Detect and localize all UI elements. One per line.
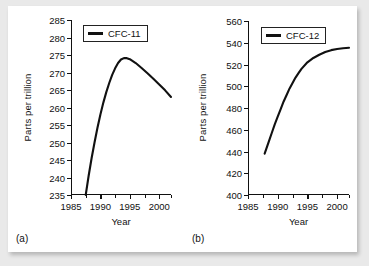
plot-area-b: 4004204404604805005205405601985199019952…: [248, 21, 349, 195]
x-tick-label: 1985: [237, 201, 258, 212]
y-tick-label: 560: [226, 16, 242, 27]
x-tick: [159, 195, 160, 199]
legend-a: CFC-11: [83, 25, 148, 42]
y-tick-label: 480: [226, 103, 242, 114]
x-tick-label: 1995: [297, 201, 318, 212]
x-tick-minor: [171, 195, 172, 198]
y-tick-label: 285: [49, 15, 65, 26]
y-tick-label: 400: [226, 190, 242, 201]
x-tick-label: 2000: [149, 201, 170, 212]
figure-card: Parts per trillion 235240245250255260265…: [8, 6, 357, 252]
y-tick-label: 440: [226, 146, 242, 157]
x-axis-title-a: Year: [71, 216, 171, 227]
x-tick-label: 1995: [119, 201, 140, 212]
x-tick-label: 2000: [327, 201, 348, 212]
x-tick-minor: [349, 195, 350, 198]
y-axis-title-a: Parts per trillion: [22, 50, 33, 166]
y-tick-label: 540: [226, 37, 242, 48]
x-tick: [278, 195, 279, 199]
y-tick-label: 270: [49, 67, 65, 78]
data-curve-cfc-11: [71, 20, 171, 195]
y-tick-label: 500: [226, 81, 242, 92]
y-tick-label: 420: [226, 168, 242, 179]
y-tick-label: 255: [49, 120, 65, 131]
x-tick-label: 1990: [90, 201, 111, 212]
x-tick: [71, 195, 72, 199]
x-tick-minor: [145, 195, 146, 198]
legend-label-cfc-12: CFC-12: [286, 30, 319, 41]
x-tick-minor: [322, 195, 323, 198]
x-tick-minor: [115, 195, 116, 198]
y-tick-label: 460: [226, 124, 242, 135]
legend-line-swatch-cfc-12: [266, 34, 281, 37]
y-tick-label: 260: [49, 102, 65, 113]
x-tick-label: 1990: [267, 201, 288, 212]
legend-label-cfc-11: CFC-11: [108, 28, 141, 39]
x-tick: [248, 195, 249, 199]
data-curve-cfc-12: [248, 21, 349, 195]
y-tick-label: 265: [49, 85, 65, 96]
y-axis-title-b: Parts per trillion: [197, 50, 208, 166]
y-tick-label: 245: [49, 155, 65, 166]
legend-b: CFC-12: [261, 27, 326, 44]
y-tick-label: 520: [226, 59, 242, 70]
legend-line-swatch-cfc-11: [88, 32, 103, 35]
x-tick-minor: [263, 195, 264, 198]
y-tick-label: 235: [49, 190, 65, 201]
x-tick: [307, 195, 308, 199]
y-tick-label: 275: [49, 50, 65, 61]
plot-area-a: 2352402452502552602652702752802851985199…: [71, 20, 171, 195]
chart-panel-b: Parts per trillion 400420440460480500520…: [186, 6, 360, 252]
y-tick-label: 280: [49, 32, 65, 43]
x-tick: [130, 195, 131, 199]
panel-tag-a: (a): [16, 233, 28, 244]
x-tick-label: 1985: [60, 201, 81, 212]
x-tick: [337, 195, 338, 199]
x-tick-minor: [293, 195, 294, 198]
x-axis-title-b: Year: [248, 216, 349, 227]
chart-panel-a: Parts per trillion 235240245250255260265…: [10, 6, 184, 252]
x-tick: [100, 195, 101, 199]
panel-tag-b: (b): [192, 233, 204, 244]
y-tick-label: 240: [49, 172, 65, 183]
y-tick-label: 250: [49, 137, 65, 148]
